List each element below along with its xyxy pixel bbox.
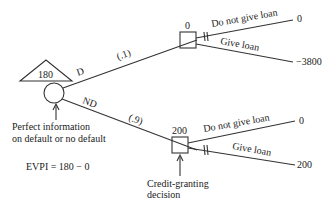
top-option-1-label: Do not give loan [210,7,278,29]
bottom-option-2-label: Give loan [232,140,272,158]
chance-node [44,83,64,103]
root-caption-1: Perfect information [12,121,90,132]
top-option-2-payoff: −3800 [296,56,322,67]
branch-nd-prob: (.9) [127,112,144,128]
root-caption-2: on default or no default [12,133,106,144]
evpi-text: EVPI = 180 − 0 [26,161,90,172]
bottom-option-1-payoff: 0 [299,115,304,126]
bottom-option-1-label: Do not give loan [202,112,270,134]
decision-tree-diagram: 180 D (.1) ND (.9) 0 Do not give loan 0 … [0,0,334,205]
bottom-option-2-payoff: 200 [297,159,312,170]
bottom-caption-1: Credit-granting [147,178,209,189]
branch-default [63,40,197,88]
bottom-decision-value: 200 [172,125,187,136]
top-option-1-payoff: 0 [297,13,302,24]
root-value: 180 [38,69,53,80]
branch-d-prob: (.1) [115,47,132,63]
branch-d-label: D [75,65,86,78]
bottom-caption-2: decision [147,189,180,200]
top-option-2-label: Give loan [220,35,260,53]
top-decision-value: 0 [185,20,190,31]
decision-node-bottom [172,137,188,153]
